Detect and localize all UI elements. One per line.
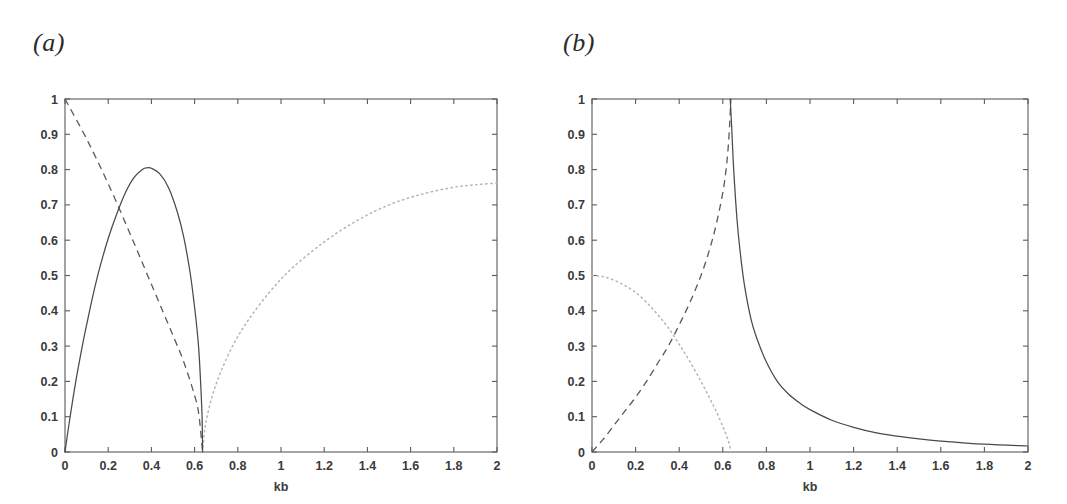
x-tick-label: 1 (807, 459, 814, 473)
y-tick-label: 0.8 (41, 163, 58, 177)
x-tick-label: 0.4 (671, 459, 688, 473)
y-tick-label: 0.6 (41, 234, 58, 248)
y-tick-label: 0.1 (568, 410, 585, 424)
x-tick-label: 1.4 (889, 459, 906, 473)
x-tick-label: 0.2 (100, 459, 117, 473)
panel-a-plot: 00.20.40.60.811.21.41.61.8200.10.20.30.4… (0, 0, 533, 504)
x-tick-label: 1.2 (845, 459, 862, 473)
curve-solid (65, 168, 203, 452)
y-tick-label: 0.7 (568, 198, 585, 212)
y-tick-label: 0.2 (41, 375, 58, 389)
x-tick-label: 1.2 (316, 459, 333, 473)
x-tick-label: 0.4 (143, 459, 160, 473)
y-tick-label: 0.5 (41, 269, 58, 283)
y-tick-label: 0.4 (568, 304, 585, 318)
y-tick-label: 0.6 (568, 234, 585, 248)
x-tick-label: 1.6 (932, 459, 949, 473)
curve-dashed (592, 99, 731, 452)
y-tick-label: 0.3 (568, 340, 585, 354)
y-tick-label: 1 (51, 93, 58, 107)
y-tick-label: 0.1 (41, 410, 58, 424)
panel-a: (a) 00.20.40.60.811.21.41.61.8200.10.20.… (0, 0, 533, 504)
y-tick-label: 1 (578, 93, 585, 107)
x-tick-label: 0.2 (627, 459, 644, 473)
x-tick-label: 1.4 (359, 459, 376, 473)
y-tick-label: 0.9 (41, 128, 58, 142)
curve-dashed (65, 99, 203, 452)
x-tick-label: 0 (62, 459, 69, 473)
y-tick-label: 0 (578, 446, 585, 460)
x-tick-label: 0.8 (229, 459, 246, 473)
x-axis-label: kb (274, 480, 289, 494)
y-tick-label: 0 (51, 446, 58, 460)
x-tick-label: 0.8 (758, 459, 775, 473)
y-tick-label: 0.4 (41, 304, 58, 318)
y-tick-label: 0.9 (568, 128, 585, 142)
y-tick-label: 0.2 (568, 375, 585, 389)
y-tick-label: 0.5 (568, 269, 585, 283)
curve-dotted (592, 276, 731, 453)
panel-b-plot: 00.20.40.60.811.21.41.61.8200.10.20.30.4… (533, 0, 1067, 504)
x-tick-label: 2 (494, 459, 501, 473)
figure-container: (a) 00.20.40.60.811.21.41.61.8200.10.20.… (0, 0, 1067, 504)
panel-b: (b) 00.20.40.60.811.21.41.61.8200.10.20.… (533, 0, 1066, 504)
x-tick-label: 1 (278, 459, 285, 473)
curve-solid (730, 99, 1028, 446)
x-tick-label: 0.6 (714, 459, 731, 473)
y-tick-label: 0.7 (41, 198, 58, 212)
x-tick-label: 2 (1025, 459, 1032, 473)
y-tick-label: 0.3 (41, 340, 58, 354)
x-tick-label: 1.8 (445, 459, 462, 473)
x-tick-label: 1.8 (976, 459, 993, 473)
x-axis-label: kb (803, 480, 818, 494)
x-tick-label: 0.6 (186, 459, 203, 473)
y-tick-label: 0.8 (568, 163, 585, 177)
x-tick-label: 1.6 (402, 459, 419, 473)
x-tick-label: 0 (589, 459, 596, 473)
curve-dotted (203, 183, 497, 452)
